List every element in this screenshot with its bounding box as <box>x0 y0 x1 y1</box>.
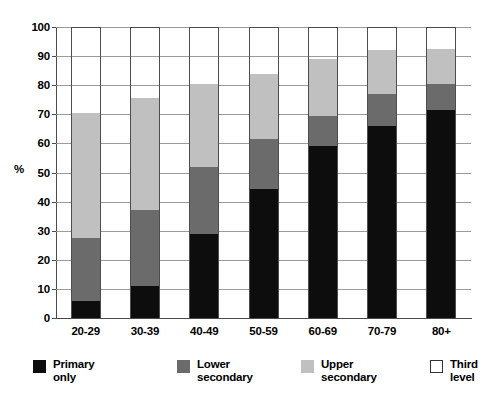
bar-segment-third-level[interactable] <box>189 27 219 84</box>
bar-segment-upper-secondary[interactable] <box>367 50 397 94</box>
legend-item[interactable]: Upper secondary <box>301 358 377 384</box>
bar-segment-upper-secondary[interactable] <box>308 59 338 116</box>
bar-segment-lower-secondary[interactable] <box>71 238 101 301</box>
bar-segment-primary-only[interactable] <box>308 146 338 318</box>
y-axis-tick-label: 40 <box>38 196 50 208</box>
y-axis-tick-label: 70 <box>38 108 50 120</box>
y-axis-tick-label: 60 <box>38 137 50 149</box>
bar-group[interactable] <box>308 27 338 318</box>
bar-group[interactable] <box>249 27 279 318</box>
bar-segment-lower-secondary[interactable] <box>189 167 219 234</box>
stacked-bar-chart: % 0102030405060708090100 20-2930-3940-49… <box>0 0 482 405</box>
bar-segment-upper-secondary[interactable] <box>249 74 279 139</box>
y-axis-tick-label: 30 <box>38 225 50 237</box>
y-axis-tick-mark <box>52 202 56 203</box>
bar-segment-third-level[interactable] <box>130 27 160 98</box>
y-axis-tick-mark <box>52 85 56 86</box>
bar-segment-primary-only[interactable] <box>367 126 397 318</box>
bar-group[interactable] <box>189 27 219 318</box>
bar-segment-third-level[interactable] <box>249 27 279 74</box>
bar-segment-primary-only[interactable] <box>71 301 101 318</box>
bar-segment-upper-secondary[interactable] <box>426 49 456 84</box>
legend-item[interactable]: Primary only <box>33 358 94 384</box>
legend-item-label: Lower secondary <box>197 358 253 384</box>
y-axis-tick-label: 80 <box>38 79 50 91</box>
y-axis-tick-label: 0 <box>44 312 50 324</box>
legend-item[interactable]: Third level <box>430 358 478 384</box>
bar-group[interactable] <box>71 27 101 318</box>
bar-segment-primary-only[interactable] <box>249 189 279 318</box>
bar-segment-lower-secondary[interactable] <box>308 116 338 147</box>
lower-secondary-swatch-icon <box>177 360 190 373</box>
upper-secondary-swatch-icon <box>301 360 314 373</box>
bar-segment-upper-secondary[interactable] <box>130 98 160 210</box>
bar-segment-primary-only[interactable] <box>130 286 160 318</box>
bar-segment-third-level[interactable] <box>71 27 101 113</box>
y-axis-unit-label: % <box>14 163 24 175</box>
y-axis-tick-mark <box>52 173 56 174</box>
legend-item-label: Upper secondary <box>321 358 377 384</box>
x-axis-tick-label: 50-59 <box>232 325 296 337</box>
x-axis-tick-label: 80+ <box>409 325 473 337</box>
bar-segment-third-level[interactable] <box>367 27 397 50</box>
bar-segment-lower-secondary[interactable] <box>367 94 397 126</box>
y-axis-tick-label: 50 <box>38 167 50 179</box>
y-axis-tick-label: 20 <box>38 254 50 266</box>
y-axis-tick-mark <box>52 143 56 144</box>
bar-segment-lower-secondary[interactable] <box>130 210 160 286</box>
bar-segment-upper-secondary[interactable] <box>71 113 101 238</box>
bar-group[interactable] <box>367 27 397 318</box>
y-axis-tick-mark <box>52 289 56 290</box>
x-axis-tick-label: 70-79 <box>350 325 414 337</box>
third-level-swatch-icon <box>430 360 443 373</box>
y-axis-tick-label: 100 <box>31 21 50 33</box>
legend-item-label: Primary only <box>53 358 94 384</box>
plot-area: 0102030405060708090100 <box>56 27 471 318</box>
y-axis-tick-mark <box>52 27 56 28</box>
bar-group[interactable] <box>130 27 160 318</box>
y-axis-tick-mark <box>52 318 56 319</box>
y-axis-tick-mark <box>52 56 56 57</box>
bar-segment-third-level[interactable] <box>426 27 456 49</box>
bar-group[interactable] <box>426 27 456 318</box>
legend-item-label: Third level <box>450 358 478 384</box>
bar-segment-third-level[interactable] <box>308 27 338 59</box>
bar-segment-lower-secondary[interactable] <box>426 84 456 110</box>
x-axis-tick-label: 60-69 <box>291 325 355 337</box>
y-axis-tick-mark <box>52 114 56 115</box>
legend-item[interactable]: Lower secondary <box>177 358 253 384</box>
bar-segment-primary-only[interactable] <box>189 234 219 318</box>
y-axis-tick-label: 10 <box>38 283 50 295</box>
bar-segment-lower-secondary[interactable] <box>249 139 279 188</box>
bar-segment-primary-only[interactable] <box>426 110 456 318</box>
bar-segment-upper-secondary[interactable] <box>189 84 219 167</box>
y-axis-tick-mark <box>52 260 56 261</box>
y-axis-tick-mark <box>52 231 56 232</box>
primary-only-swatch-icon <box>33 360 46 373</box>
x-axis-tick-label: 40-49 <box>172 325 236 337</box>
x-axis-tick-label: 30-39 <box>113 325 177 337</box>
x-axis-tick-label: 20-29 <box>54 325 118 337</box>
y-axis-tick-label: 90 <box>38 50 50 62</box>
x-axis-line <box>56 318 472 319</box>
chart-legend: Primary onlyLower secondaryUpper seconda… <box>33 358 463 392</box>
